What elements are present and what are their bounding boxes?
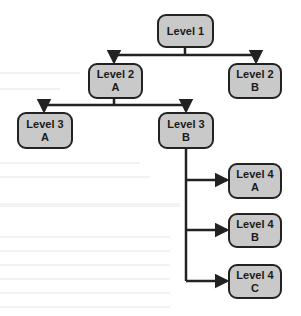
node-sublabel: C [251,282,259,295]
node-label: Level 2 [97,68,134,81]
node-label: Level 2 [236,68,273,81]
node-sublabel: A [41,131,49,144]
node-label: Level 4 [236,269,273,282]
node-label: Level 4 [236,218,273,231]
node-sublabel: A [112,81,120,94]
node-level1: Level 1 [157,14,214,48]
edge-level1-level2 [114,48,256,55]
node-level3b: Level 3B [158,112,214,149]
node-label: Level 4 [236,168,273,181]
node-level4a: Level 4A [228,163,282,199]
node-sublabel: B [251,231,259,244]
node-level4b: Level 4B [228,213,282,248]
node-level2a: Level 2A [88,63,143,99]
node-level2b: Level 2B [228,63,282,99]
node-level4c: Level 4C [228,264,282,299]
node-sublabel: B [251,81,259,94]
node-sublabel: A [251,181,259,194]
node-label: Level 3 [167,118,204,131]
edge-level2a-level3 [44,99,186,105]
node-level3a: Level 3A [17,112,73,149]
node-label: Level 1 [167,25,204,38]
node-label: Level 3 [26,118,63,131]
node-sublabel: B [182,131,190,144]
